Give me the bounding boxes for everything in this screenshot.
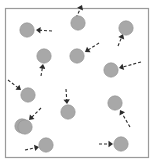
particle-diagram-figure [0, 0, 155, 165]
particle-left-upper-edge [18, 120, 32, 134]
particle-lower-right [108, 96, 122, 110]
particle-top-left [20, 23, 34, 37]
particle-upper-mid-center [70, 49, 84, 63]
particle-center-low [61, 105, 75, 119]
particle-mid-right [104, 63, 118, 77]
particle-upper-mid-left [37, 49, 51, 63]
particle-bottom-left [39, 138, 53, 152]
particle-top-center [71, 16, 85, 30]
particle-diagram-canvas [0, 0, 155, 165]
particle-mid-left [21, 88, 35, 102]
particle-bottom-right [114, 137, 128, 151]
particle-top-right [119, 21, 133, 35]
